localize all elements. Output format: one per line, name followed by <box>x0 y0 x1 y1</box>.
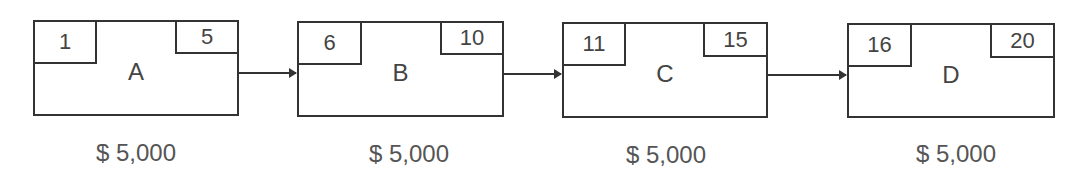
start-value: 1 <box>59 29 71 55</box>
end-value: 15 <box>723 27 747 53</box>
start-value: 6 <box>323 30 335 56</box>
activity-label: B <box>299 59 502 87</box>
end-cell: 15 <box>703 22 768 57</box>
activity-label: D <box>849 61 1053 89</box>
start-value: 11 <box>583 31 606 57</box>
end-cell: 20 <box>990 23 1055 58</box>
activity-node-c: 11 15 C <box>562 22 768 118</box>
activity-label: C <box>564 60 766 88</box>
start-value: 16 <box>867 32 891 58</box>
activity-cost: $ 5,000 <box>566 141 766 169</box>
arrow-c-d <box>768 74 846 76</box>
activity-cost: $ 5,000 <box>856 140 1056 168</box>
activity-cost: $ 5,000 <box>36 139 236 167</box>
activity-label: A <box>35 58 237 86</box>
activity-cost: $ 5,000 <box>309 140 509 168</box>
end-value: 20 <box>1010 28 1034 54</box>
end-value: 10 <box>460 25 484 51</box>
arrow-a-b <box>239 72 296 74</box>
activity-node-a: 1 5 A <box>33 20 239 116</box>
end-cell: 5 <box>175 20 239 54</box>
end-cell: 10 <box>440 21 504 55</box>
arrow-b-c <box>504 73 561 75</box>
end-value: 5 <box>201 24 213 50</box>
activity-node-b: 6 10 B <box>297 21 504 117</box>
activity-node-d: 16 20 D <box>847 23 1055 118</box>
